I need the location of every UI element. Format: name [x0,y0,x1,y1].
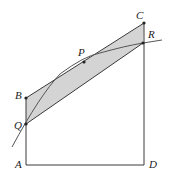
point-r [141,41,144,44]
point-p [82,60,85,63]
label-b: B [15,89,22,101]
label-q: Q [14,119,22,131]
point-c [142,21,145,24]
point-q [24,122,27,125]
label-r: R [147,28,155,40]
shaded-parallelogram-bcrq [26,23,144,124]
segment-bc [26,23,144,98]
label-p: P [77,46,85,58]
label-c: C [136,9,144,21]
point-b [24,96,27,99]
label-a: A [14,158,22,170]
label-d: D [148,158,157,170]
trapezoid-diagram: A B Q C R P D [0,0,169,183]
